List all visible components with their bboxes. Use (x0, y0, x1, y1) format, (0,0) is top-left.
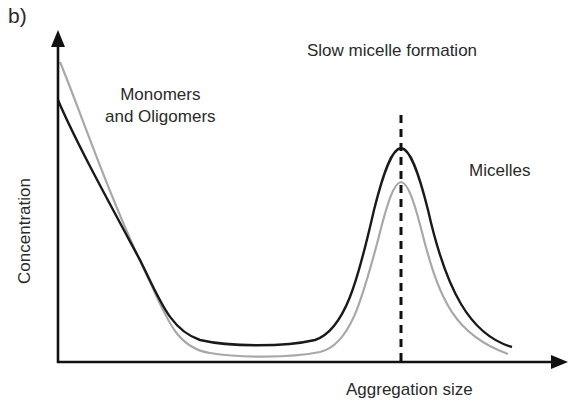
x-axis-arrow-icon (551, 355, 568, 369)
gray-curve (60, 62, 508, 357)
dark-curve (58, 100, 512, 347)
y-axis-arrow-icon (51, 30, 65, 47)
chart-canvas (0, 0, 573, 411)
